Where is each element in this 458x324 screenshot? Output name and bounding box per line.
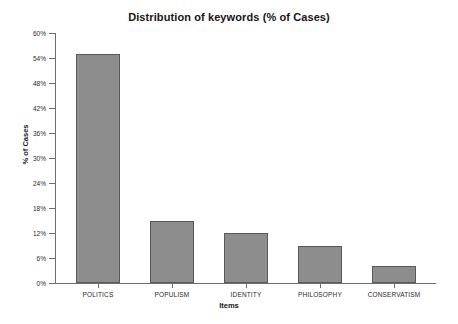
x-axis-title: Items (0, 301, 458, 310)
y-axis-title: % of Cases (21, 115, 30, 175)
y-tick-label: 0% (6, 280, 46, 287)
bar (298, 246, 342, 284)
y-tick-label: 54% (6, 55, 46, 62)
chart-title: Distribution of keywords (% of Cases) (0, 11, 458, 23)
bar (224, 233, 268, 283)
x-tick-mark (98, 283, 99, 288)
y-tick-label: 60% (6, 30, 46, 37)
x-tick-mark (172, 283, 173, 288)
x-tick-mark (394, 283, 395, 288)
y-tick-mark (49, 283, 55, 284)
bar-chart: Distribution of keywords (% of Cases) 0%… (0, 0, 458, 324)
y-tick-label: 48% (6, 80, 46, 87)
bar (150, 221, 194, 284)
y-tick-label: 24% (6, 180, 46, 187)
x-tick-mark (320, 283, 321, 288)
y-tick-label: 12% (6, 230, 46, 237)
bar (76, 54, 120, 283)
x-category-label: CONSERVATISM (349, 291, 439, 298)
y-tick-label: 42% (6, 105, 46, 112)
plot-area (55, 33, 435, 283)
y-tick-label: 18% (6, 205, 46, 212)
bar (372, 266, 416, 283)
y-tick-label: 6% (6, 255, 46, 262)
x-tick-mark (246, 283, 247, 288)
